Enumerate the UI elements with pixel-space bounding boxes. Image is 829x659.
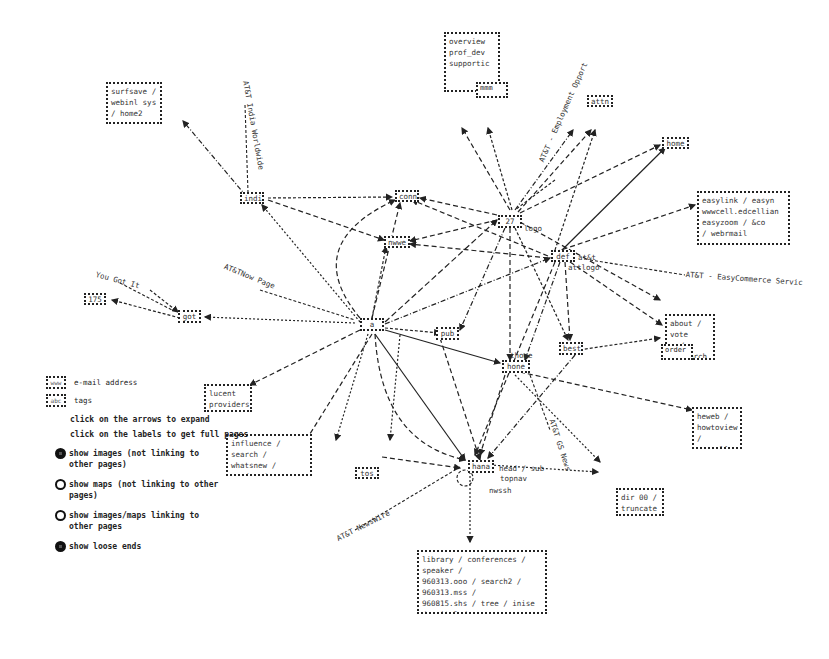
node-text: easylink / easyn [702,195,785,206]
radio-unchecked-icon[interactable] [55,479,66,490]
hint-full-pages: click on the labels to get full pages [70,430,248,439]
node-home[interactable]: home [662,137,689,149]
node-text: overview [449,36,495,47]
node-text: library / conferences / speaker / [422,554,542,576]
node-text: webinl sys [111,97,157,108]
node-text: influence / search / [231,438,307,460]
node-influence[interactable]: influence / search / whatsnew / academ /… [226,434,312,476]
option-label: show images (not linking to other pages) [69,448,219,470]
edge-label-attlogo[interactable]: attlogo [568,263,600,272]
node-text: whatsnew / academ / [231,460,307,476]
option-show-loose-ends[interactable]: show loose ends [55,541,219,552]
legend-swatch: www [46,376,66,389]
node-text: supportic [449,58,495,69]
node-india[interactable]: india [240,192,264,204]
node-27[interactable]: 27 [498,215,522,228]
node-overview-tag[interactable]: mmm [476,82,508,98]
option-show-images[interactable]: show images (not linking to other pages) [55,448,219,470]
node-text: yoverl] [697,444,737,449]
radio-checked-icon[interactable] [55,448,66,459]
radio-checked-icon[interactable] [55,541,66,552]
hint-expand: click on the arrows to expand [70,415,210,424]
edge-label-thome[interactable]: thome [510,351,533,360]
node-175[interactable]: 175 [84,293,106,305]
edge-label-head-sub[interactable]: head / sub [499,464,544,473]
node-text: howtoview / [697,422,737,444]
node-conn[interactable]: conn [395,190,419,202]
node-text: 960815.shs / tree / inise / write2 / [422,598,542,614]
node-dir[interactable]: dir 00 / truncate [616,488,664,516]
node-text: easyzoom / &co [702,217,785,228]
edge-label-logo[interactable]: logo [524,224,542,233]
node-pub[interactable]: pub [436,327,459,340]
option-show-images-maps-linking[interactable]: show images/maps linking to other pages [55,510,219,532]
node-text: lucent [209,388,247,399]
node-easylink[interactable]: easylink / easyn wwwcell.edcellian easyz… [697,191,790,245]
node-text: / webrmail [702,228,785,239]
node-hsweb[interactable]: heweb / howtoview / yoverl] [692,407,742,449]
node-text: heweb / [697,411,737,422]
node-attn[interactable]: attn [587,95,613,107]
node-library[interactable]: library / conferences / speaker / 960313… [417,550,547,614]
edge-label-topnav[interactable]: topnav [500,474,527,483]
node-text: about / vote [670,318,710,340]
legend-label: tags [74,396,92,405]
node-best[interactable]: best [559,342,583,355]
node-hone[interactable]: hone [502,360,530,373]
node-nwwe[interactable]: nwwe [384,236,410,248]
node-def[interactable]: def [551,250,575,262]
option-label: show images/maps linking to other pages [69,510,219,532]
option-label: show maps (not linking to other pages) [69,479,219,501]
legend-swatch: abc [46,394,66,407]
node-text: wwwcell.edcellian [702,206,785,217]
edge-label-at-t[interactable]: at&t [578,253,596,262]
node-a[interactable]: a [360,318,384,331]
radio-unchecked-icon[interactable] [55,510,66,521]
node-text: prof_dev [449,47,495,58]
edge-label-nwssh[interactable]: nwssh [489,486,512,495]
node-text: truncate [621,503,659,514]
node-got[interactable]: got [178,310,201,323]
option-label: show loose ends [69,541,219,552]
node-hana[interactable]: hana [468,460,494,473]
node-tos[interactable]: tos [355,467,379,479]
node-lucent[interactable]: lucent providers [204,384,252,412]
node-text: providers [209,399,247,410]
legend-tags: abc tags [46,394,92,407]
legend-email: www e-mail address [46,376,137,389]
node-about-tag[interactable]: order [661,344,693,360]
node-text: surfsave / [111,86,157,97]
option-show-maps[interactable]: show maps (not linking to other pages) [55,479,219,501]
node-text: dir 00 / [621,492,659,503]
legend-label: e-mail address [74,378,137,387]
node-text: 960313.ooo / search2 / 960313.mss / [422,576,542,598]
node-surfsave[interactable]: surfsave / webinl sys / home2 [106,82,162,124]
node-text: / home2 [111,108,157,119]
